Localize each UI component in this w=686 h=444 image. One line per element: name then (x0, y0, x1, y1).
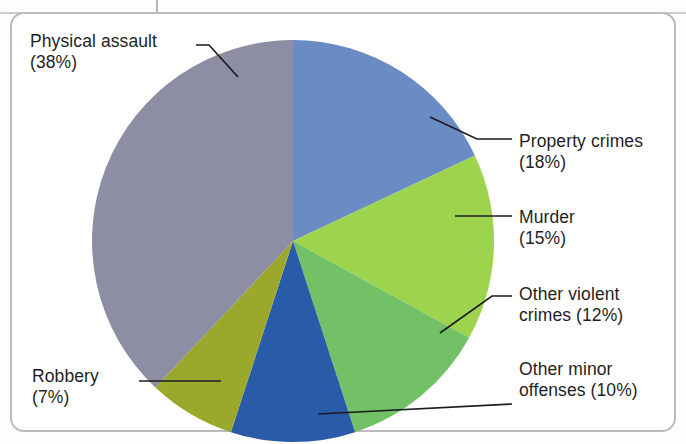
slice-label-murder: Murder (15%) (519, 207, 575, 250)
slice-label-physical-assault: Physical assault (38%) (30, 31, 157, 74)
chart-page: Physical assault (38%) Property crimes (… (0, 0, 686, 444)
slice-label-other-violent-crimes: Other violent crimes (12%) (519, 284, 623, 327)
pie-chart: Physical assault (38%) Property crimes (… (0, 0, 686, 444)
slice-label-robbery: Robbery (7%) (32, 366, 99, 409)
slice-label-other-minor-offenses: Other minor offenses (10%) (519, 359, 638, 402)
slice-label-property-crimes: Property crimes (18%) (519, 131, 643, 174)
